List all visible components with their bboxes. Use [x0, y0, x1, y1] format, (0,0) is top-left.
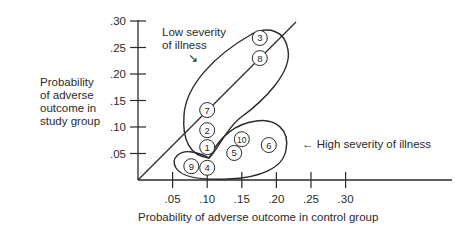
data-point: 6: [261, 138, 276, 153]
high-severity-text: High severity of illness: [317, 138, 431, 150]
data-point: 5: [227, 145, 242, 160]
arrow-down-right-icon: ↘: [188, 52, 226, 65]
point-label: 6: [266, 140, 271, 151]
low-severity-line: of illness: [162, 39, 226, 52]
point-label: 3: [257, 32, 262, 43]
point-label: 1: [205, 142, 210, 153]
point-label: 7: [205, 105, 210, 116]
arrow-left-icon: ←: [302, 138, 314, 150]
y-tick-label: .30: [110, 15, 126, 27]
x-tick-label: .05: [165, 193, 181, 205]
high-severity-annotation: ← High severity of illness: [302, 138, 431, 150]
x-tick-label: .20: [268, 193, 284, 205]
y-axis-label-line: of adverse: [40, 89, 100, 102]
y-axis-label-line: study group: [40, 115, 100, 128]
y-axis-label-line: Probability: [40, 76, 100, 89]
point-label: 4: [205, 162, 210, 173]
x-tick-label: .25: [303, 193, 319, 205]
x-axis-label: Probability of adverse outcome in contro…: [138, 211, 378, 223]
y-axis-label: Probability of adverse outcome in study …: [40, 76, 100, 128]
y-tick-label: .15: [110, 95, 126, 107]
point-label: 8: [257, 53, 262, 64]
x-tick-label: .10: [199, 193, 215, 205]
data-point: 10: [234, 132, 249, 147]
y-tick-label: .05: [110, 148, 126, 160]
point-label: 5: [232, 147, 237, 158]
data-point: 9: [184, 159, 199, 174]
data-point: 3: [252, 30, 267, 45]
x-tick-label: .15: [234, 193, 250, 205]
data-point: 7: [200, 103, 215, 118]
data-point: 1: [200, 140, 215, 155]
data-point: 2: [200, 123, 215, 138]
low-severity-annotation: Low severity of illness ↘: [162, 26, 226, 65]
low-severity-line: Low severity: [162, 26, 226, 39]
point-label: 10: [237, 135, 247, 145]
y-tick-label: .25: [110, 42, 126, 54]
point-label: 9: [189, 161, 194, 172]
data-point: 8: [252, 51, 267, 66]
point-label: 2: [205, 125, 210, 136]
data-point: 4: [200, 160, 215, 175]
x-tick-label: .30: [338, 193, 354, 205]
y-tick-label: .20: [110, 68, 126, 80]
y-axis-label-line: outcome in: [40, 102, 100, 115]
y-ticks: .05.10.15.20.25.30: [110, 15, 146, 160]
y-tick-label: .10: [110, 121, 126, 133]
